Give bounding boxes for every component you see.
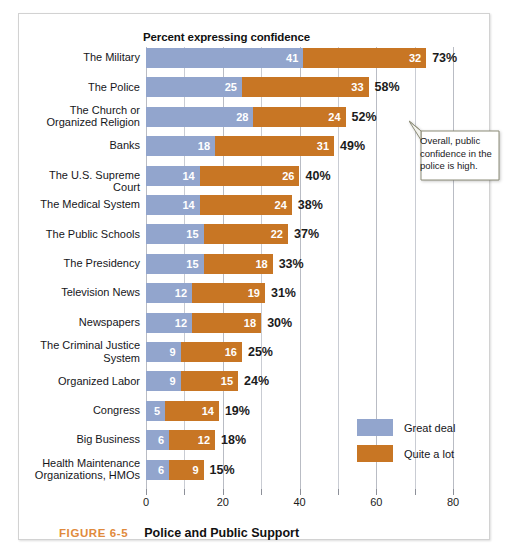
chart-title: Percent expressing confidence xyxy=(143,31,310,43)
bar-value-great-deal: 6 xyxy=(146,430,169,450)
bar-row: 253358% xyxy=(146,77,453,97)
bar-total-label: 30% xyxy=(261,313,292,333)
x-axis-tick-minor xyxy=(415,489,416,495)
category-label: The Police xyxy=(24,81,146,94)
category-label: Health Maintenance Organizations, HMOs xyxy=(24,457,146,482)
bar-value-great-deal: 12 xyxy=(146,283,192,303)
bar-row: 142640% xyxy=(146,166,453,186)
x-axis-tick-minor xyxy=(184,489,185,495)
bar-total-label: 58% xyxy=(369,77,400,97)
bar-row: 121830% xyxy=(146,313,453,333)
figure-number: FIGURE 6-5 xyxy=(59,527,128,539)
bar-value-quite-a-lot: 33 xyxy=(242,77,369,97)
bar-row: 282452% xyxy=(146,107,453,127)
category-label: The Presidency xyxy=(24,257,146,270)
bar-row: 121931% xyxy=(146,283,453,303)
bar-value-quite-a-lot: 26 xyxy=(200,166,300,186)
bar-total-label: 24% xyxy=(238,371,269,391)
bar-value-quite-a-lot: 31 xyxy=(215,136,334,156)
figure-frame: Percent expressing confidence The Milita… xyxy=(18,13,490,540)
bar-total-label: 40% xyxy=(300,166,331,186)
legend-item: Quite a lot xyxy=(357,444,477,463)
x-axis-tick xyxy=(223,489,224,495)
bar-value-quite-a-lot: 16 xyxy=(181,342,242,362)
bar-value-great-deal: 25 xyxy=(146,77,242,97)
bar-value-quite-a-lot: 22 xyxy=(204,224,288,244)
bar-value-great-deal: 6 xyxy=(146,460,169,480)
category-label: Newspapers xyxy=(24,316,146,329)
x-axis-tick xyxy=(453,489,454,495)
category-label: The Church or Organized Religion xyxy=(24,104,146,129)
bar-row: 91524% xyxy=(146,371,453,391)
category-label: Congress xyxy=(24,404,146,417)
chart-legend: Great dealQuite a lot xyxy=(357,418,477,470)
bar-total-label: 37% xyxy=(288,224,319,244)
bar-row: 91625% xyxy=(146,342,453,362)
bar-value-great-deal: 5 xyxy=(146,401,165,421)
bar-total-label: 31% xyxy=(265,283,296,303)
bar-value-great-deal: 41 xyxy=(146,48,303,68)
bar-total-label: 25% xyxy=(242,342,273,362)
category-label: Banks xyxy=(24,139,146,152)
bar-value-great-deal: 12 xyxy=(146,313,192,333)
bar-value-quite-a-lot: 24 xyxy=(200,195,292,215)
bar-total-label: 49% xyxy=(334,136,365,156)
bar-value-great-deal: 18 xyxy=(146,136,215,156)
bar-value-great-deal: 14 xyxy=(146,195,200,215)
bar-value-quite-a-lot: 18 xyxy=(192,313,261,333)
bar-total-label: 19% xyxy=(219,401,250,421)
category-label: The Public Schools xyxy=(24,228,146,241)
x-axis-tick-minor xyxy=(261,489,262,495)
bar-value-great-deal: 14 xyxy=(146,166,200,186)
bar-row: 151833% xyxy=(146,254,453,274)
category-label: Big Business xyxy=(24,433,146,446)
x-axis-tick-label: 20 xyxy=(217,496,229,508)
x-axis-tick-minor xyxy=(338,489,339,495)
bar-total-label: 15% xyxy=(204,460,235,480)
x-axis-tick xyxy=(146,489,147,495)
bar-value-great-deal: 15 xyxy=(146,224,204,244)
legend-swatch xyxy=(357,445,393,462)
category-label: Television News xyxy=(24,286,146,299)
bar-row: 152237% xyxy=(146,224,453,244)
bar-total-label: 38% xyxy=(292,195,323,215)
bar-value-quite-a-lot: 14 xyxy=(165,401,219,421)
legend-item: Great deal xyxy=(357,418,477,437)
bar-total-label: 73% xyxy=(426,48,457,68)
bar-value-quite-a-lot: 15 xyxy=(181,371,239,391)
bar-value-great-deal: 28 xyxy=(146,107,253,127)
legend-swatch xyxy=(357,419,393,436)
bar-value-great-deal: 15 xyxy=(146,254,204,274)
x-axis-tick-label: 40 xyxy=(293,496,305,508)
bar-value-quite-a-lot: 9 xyxy=(169,460,204,480)
x-axis: 020406080 xyxy=(146,489,453,515)
bar-total-label: 52% xyxy=(346,107,377,127)
callout-annotation: Overall, public confidence in the police… xyxy=(409,119,500,181)
bar-row: 142438% xyxy=(146,195,453,215)
figure-caption: FIGURE 6-5 Police and Public Support xyxy=(59,526,299,540)
bar-row: 413273% xyxy=(146,48,453,68)
figure-title: Police and Public Support xyxy=(144,526,299,540)
bar-total-label: 18% xyxy=(215,430,246,450)
category-label: The Military xyxy=(24,51,146,64)
bar-value-quite-a-lot: 24 xyxy=(253,107,345,127)
category-label: Organized Labor xyxy=(24,375,146,388)
x-axis-tick-label: 0 xyxy=(143,496,149,508)
bar-row: 183149% xyxy=(146,136,453,156)
x-axis-tick-label: 60 xyxy=(370,496,382,508)
callout-text: Overall, public confidence in the police… xyxy=(420,135,494,173)
category-label: The Criminal Justice System xyxy=(24,339,146,364)
bar-value-quite-a-lot: 19 xyxy=(192,283,265,303)
category-axis: The MilitaryThe PoliceThe Church or Orga… xyxy=(19,47,146,489)
bar-value-quite-a-lot: 32 xyxy=(303,48,426,68)
bar-value-quite-a-lot: 12 xyxy=(169,430,215,450)
legend-label: Quite a lot xyxy=(404,448,454,460)
bar-total-label: 33% xyxy=(273,254,304,274)
category-label: The Medical System xyxy=(24,198,146,211)
bar-value-great-deal: 9 xyxy=(146,371,181,391)
legend-label: Great deal xyxy=(404,422,455,434)
bar-value-great-deal: 9 xyxy=(146,342,181,362)
category-label: The U.S. Supreme Court xyxy=(24,169,146,194)
bar-value-quite-a-lot: 18 xyxy=(204,254,273,274)
x-axis-tick xyxy=(300,489,301,495)
